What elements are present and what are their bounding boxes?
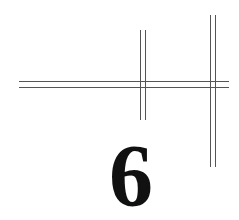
vertical-rule-middle-right [145,30,146,120]
horizontal-rule-top [19,81,229,82]
vertical-rule-right-right [215,15,216,167]
vertical-rule-right-left [210,15,211,167]
chapter-number: 6 [106,132,156,220]
vertical-rule-middle-left [140,30,141,120]
horizontal-rule-bottom [19,87,229,88]
